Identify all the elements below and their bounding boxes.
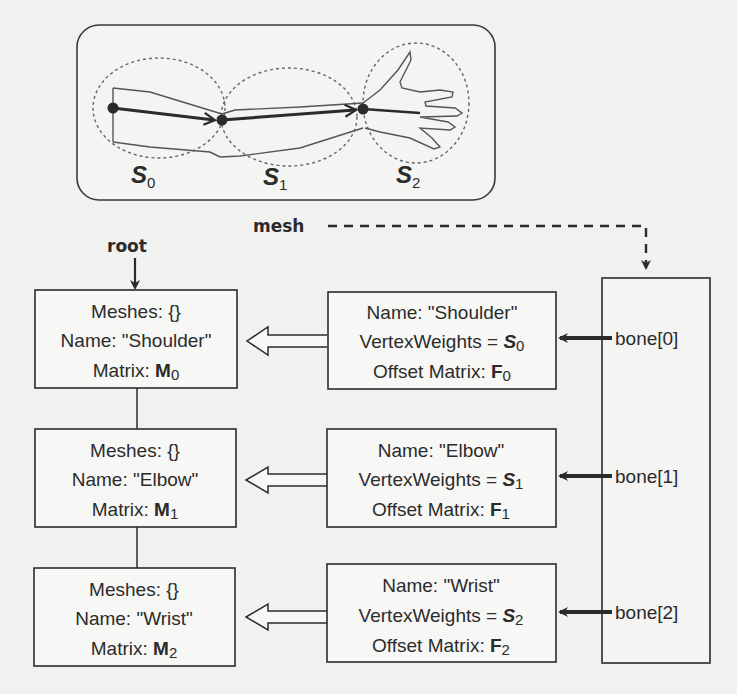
bone-shoulder: Name: "Shoulder" VertexWeights = S0 Offs…: [328, 292, 556, 389]
node-meshes: Meshes: {}: [89, 579, 179, 600]
node-matrix: Matrix: M0: [93, 360, 179, 383]
node-wrist: Meshes: {} Name: "Wrist" Matrix: M2: [34, 568, 235, 666]
joint-shoulder: [108, 103, 119, 114]
root-label: root: [107, 236, 147, 256]
mesh-label: mesh: [253, 216, 304, 236]
bone-offset-matrix: Offset Matrix: F2: [372, 635, 510, 658]
hollow-arrow-elbow: [246, 467, 327, 493]
mesh-dashed-arrow: [328, 226, 646, 268]
bone-vertex-weights: VertexWeights = S1: [359, 469, 524, 492]
node-meshes: Meshes: {}: [91, 301, 181, 322]
bone-offset-matrix: Offset Matrix: F1: [372, 499, 510, 522]
mesh-bone-entry-1: bone[1]: [615, 466, 678, 487]
bone-vertex-weights: VertexWeights = S2: [359, 605, 524, 628]
node-name: Name: "Shoulder": [61, 330, 212, 351]
joint-elbow: [217, 115, 228, 126]
node-shoulder: Meshes: {} Name: "Shoulder" Matrix: M0: [35, 290, 237, 388]
bone-wrist: Name: "Wrist" VertexWeights = S2 Offset …: [327, 564, 556, 662]
node-name: Name: "Elbow": [72, 469, 198, 490]
hollow-arrow-shoulder: [247, 327, 327, 355]
mesh-bone-entry-0: bone[0]: [615, 328, 678, 349]
hollow-arrow-wrist: [246, 604, 327, 630]
bone-name: Name: "Wrist": [382, 575, 500, 596]
node-matrix: Matrix: M2: [91, 638, 177, 661]
mesh-bone-array: bone[0] bone[1] bone[2]: [602, 278, 710, 663]
node-name: Name: "Wrist": [75, 608, 193, 629]
joint-wrist: [358, 104, 369, 115]
mesh-bone-entry-2: bone[2]: [615, 602, 678, 623]
skeleton-diagram: S0 S1 S2 root mesh Meshes: {} Name: "Sho…: [0, 0, 737, 694]
arm-figure: S0 S1 S2: [77, 25, 495, 200]
node-elbow: Meshes: {} Name: "Elbow" Matrix: M1: [35, 429, 236, 527]
bone-offset-matrix: Offset Matrix: F0: [373, 361, 511, 384]
node-meshes: Meshes: {}: [90, 440, 180, 461]
bone-elbow: Name: "Elbow" VertexWeights = S1 Offset …: [327, 429, 556, 527]
node-matrix: Matrix: M1: [92, 499, 178, 522]
bone-name: Name: "Shoulder": [367, 302, 518, 323]
bone-name: Name: "Elbow": [378, 440, 504, 461]
bone-vertex-weights: VertexWeights = S0: [360, 331, 525, 354]
